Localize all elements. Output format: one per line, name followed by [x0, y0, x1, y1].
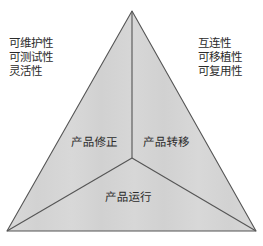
- attribute-testability: 可测试性: [9, 50, 53, 64]
- attribute-maintainability: 可维护性: [9, 36, 53, 50]
- diagram-canvas: 可维护性 可测试性 灵活性 互连性 可移植性 可复用性 产品修正 产品转移 产品…: [0, 0, 263, 246]
- attribute-flexibility: 灵活性: [9, 64, 53, 78]
- region-label-product-transfer: 产品转移: [143, 135, 190, 149]
- attributes-left-group: 可维护性 可测试性 灵活性: [9, 36, 53, 79]
- attribute-interoperability: 互连性: [198, 36, 242, 50]
- attribute-reusability: 可复用性: [198, 64, 242, 78]
- attributes-right-group: 互连性 可移植性 可复用性: [198, 36, 242, 79]
- attribute-portability: 可移植性: [198, 50, 242, 64]
- region-label-product-operation: 产品运行: [105, 190, 152, 204]
- region-label-product-repair: 产品修正: [71, 135, 118, 149]
